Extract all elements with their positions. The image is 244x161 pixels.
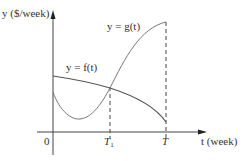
f-label: y = f(t) (66, 61, 98, 74)
origin-label: 0 (44, 135, 50, 147)
y-axis-label: y ($/week) (2, 7, 50, 20)
x-axis-label: t (week) (201, 135, 238, 148)
g-label: y = g(t) (107, 20, 140, 33)
chart: y ($/week) t (week) 0 T1 T y = f(t) y = … (0, 0, 244, 161)
y-axis-arrow-icon (51, 10, 56, 19)
x-axis-arrow-icon (198, 130, 207, 135)
t-label: T (162, 135, 169, 147)
t1-label: T1 (104, 135, 114, 149)
